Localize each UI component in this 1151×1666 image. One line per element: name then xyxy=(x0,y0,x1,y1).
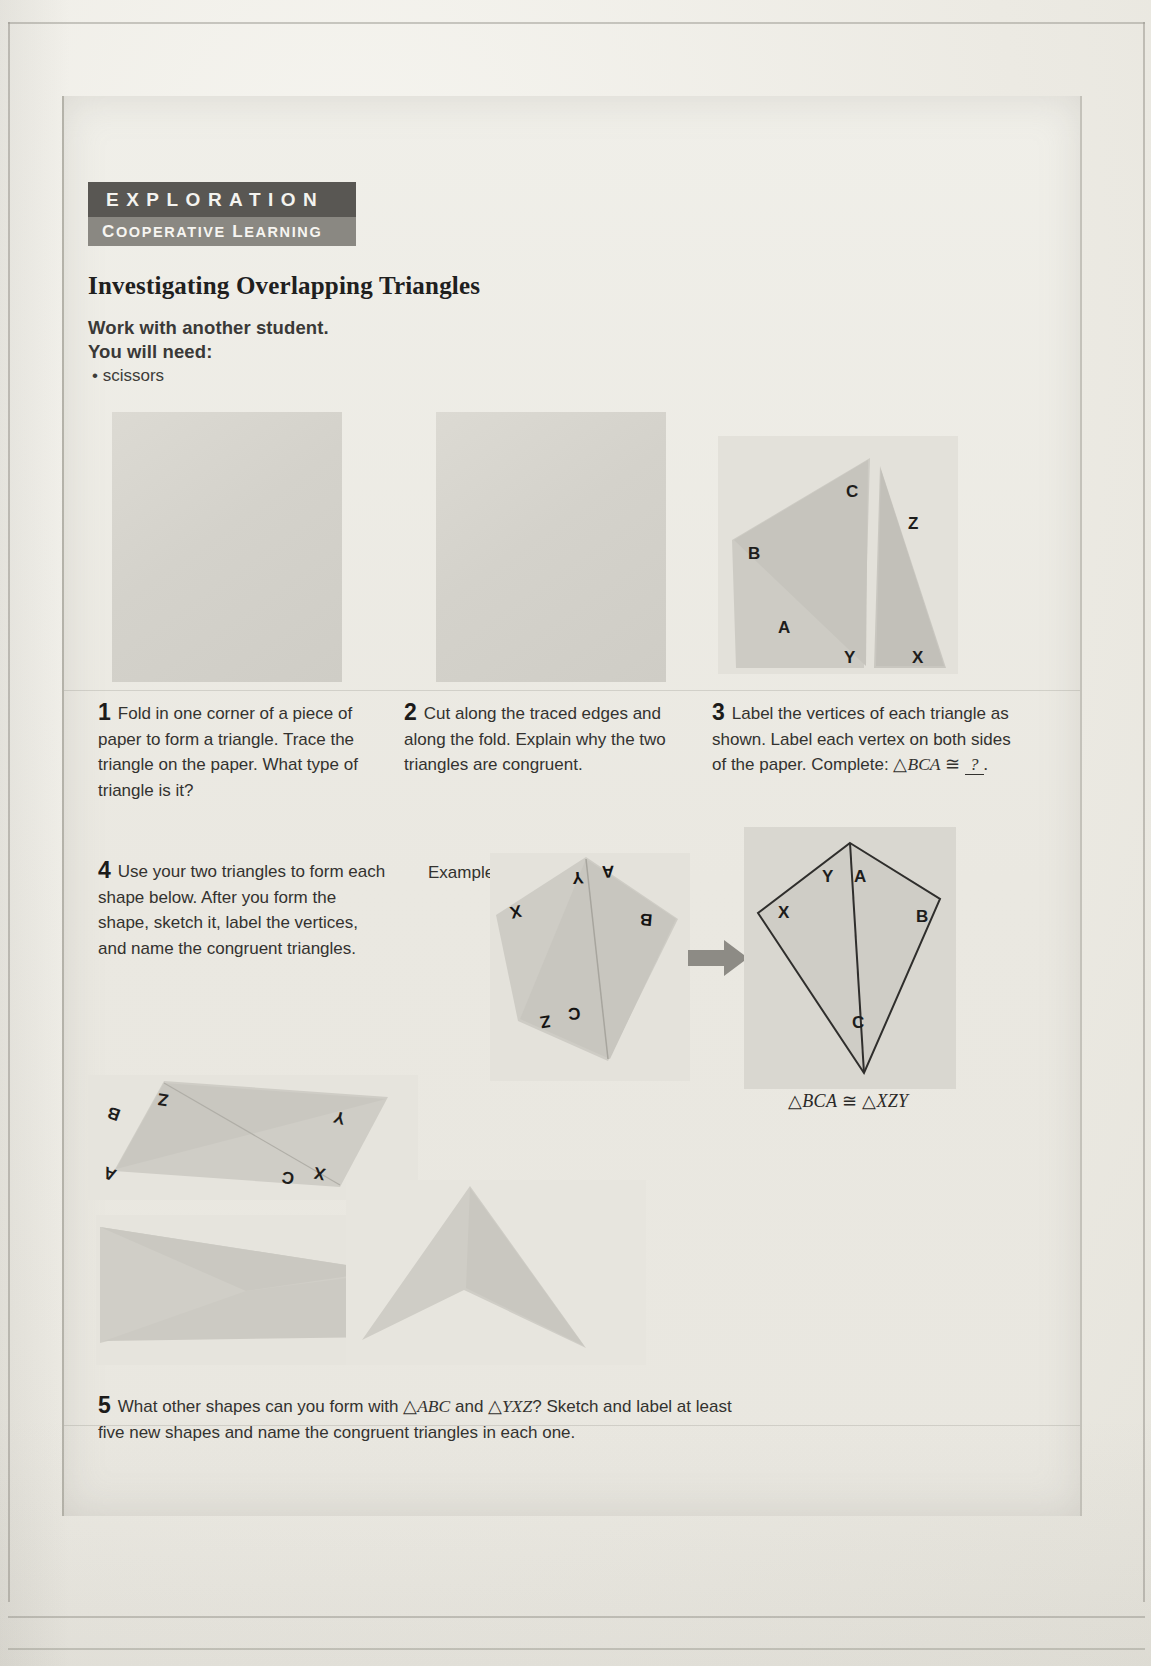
caption-xzy: XZY xyxy=(876,1091,908,1111)
step-1-number: 1 xyxy=(98,699,111,725)
page-border-top xyxy=(8,22,1145,24)
exploration-banner-subtitle: COOPERATIVE LEARNING xyxy=(88,217,356,246)
right-arrow-icon xyxy=(688,938,750,978)
photo3-vertex-label-z: Z xyxy=(908,514,918,534)
step-5-text-a: What other shapes can you form with xyxy=(118,1397,399,1416)
you-will-need-label: You will need: xyxy=(88,341,212,363)
photo3-vertex-label-y: Y xyxy=(844,648,855,668)
content-frame-rule-left xyxy=(62,96,64,1516)
example-label: Example: xyxy=(428,863,499,883)
kitephoto-vertex-label-y: Y xyxy=(571,867,584,888)
step-4: 4Use your two triangles to form each sha… xyxy=(98,858,390,961)
step-3-congruent-symbol: ≅ xyxy=(945,754,960,774)
caption-congruent: ≅ xyxy=(842,1091,857,1111)
step-2-text: Cut along the traced edges and along the… xyxy=(404,704,666,774)
step-4-number: 4 xyxy=(98,857,111,883)
kite-diagram-artwork xyxy=(744,827,956,1089)
kite-congruence-caption: △BCA ≅ △XZY xyxy=(788,1090,908,1112)
step-2: 2Cut along the traced edges and along th… xyxy=(404,700,696,778)
photo3-vertex-label-c: C xyxy=(846,482,858,502)
kitephoto-vertex-label-c: C xyxy=(567,1003,581,1024)
photo-fold-and-trace xyxy=(112,412,342,682)
step-3-period: . xyxy=(984,754,988,774)
photo1-background xyxy=(112,412,342,682)
caption-bca: BCA xyxy=(802,1091,837,1111)
photo3-vertex-label-b: B xyxy=(748,544,760,564)
kite-diagram-vertex-b: B xyxy=(916,907,928,927)
step-3-triangle-bca: BCA xyxy=(907,754,940,774)
step-3: 3Label the vertices of each triangle as … xyxy=(712,700,1012,778)
step-3-answer-blank: ? xyxy=(965,755,984,775)
kite-diagram-vertex-c: C xyxy=(852,1013,864,1033)
step-5-number: 5 xyxy=(98,1392,111,1418)
exploration-banner: EXPLORATION COOPERATIVE LEARNING xyxy=(88,182,356,246)
step-5-abc: ABC xyxy=(417,1396,450,1416)
step-1: 1Fold in one corner of a piece of paper … xyxy=(98,700,384,803)
materials-list-item: • scissors xyxy=(92,366,164,386)
step-5-triangle-2: △ xyxy=(488,1396,502,1416)
banner-sub-ooperative: OOPERATIVE xyxy=(116,224,226,240)
step-2-number: 2 xyxy=(404,699,417,725)
scan-fold-line-upper xyxy=(64,690,1080,691)
step-4-text: Use your two triangles to form each shap… xyxy=(98,862,385,958)
caption-triangle-1: △ xyxy=(788,1091,802,1111)
page-border-left xyxy=(8,22,10,1602)
step-5: 5What other shapes can you form with △AB… xyxy=(98,1393,738,1445)
photo2-background xyxy=(436,412,666,682)
caption-triangle-2: △ xyxy=(862,1091,876,1111)
photo-cut-with-scissors xyxy=(436,412,666,682)
step-5-yxz: YXZ xyxy=(502,1396,532,1416)
exploration-banner-title: EXPLORATION xyxy=(88,182,356,217)
photo-dart-shape xyxy=(346,1180,646,1365)
kite-diagram-vertex-a: A xyxy=(854,867,866,887)
page-border-right xyxy=(1143,22,1145,1602)
kite-photo-artwork xyxy=(490,853,690,1081)
diagram-kite-labeled: Y A X B C xyxy=(744,827,956,1089)
kitephoto-vertex-label-a: A xyxy=(602,861,615,881)
page-border-bottom xyxy=(8,1616,1145,1618)
banner-sub-c: C xyxy=(102,222,116,241)
banner-sub-l: L xyxy=(226,222,244,241)
content-frame-rule-right xyxy=(1080,96,1082,1516)
kitephoto-vertex-label-b: B xyxy=(639,909,653,930)
bullet-icon: • xyxy=(92,366,98,385)
step-5-triangle-1: △ xyxy=(403,1396,417,1416)
kite-diagram-vertex-x: X xyxy=(778,903,789,923)
work-with-instruction: Work with another student. xyxy=(88,317,329,339)
photo-kite-paper-shape: A Y X B C Z xyxy=(490,853,690,1081)
dart-artwork xyxy=(346,1180,646,1365)
step-1-text: Fold in one corner of a piece of paper t… xyxy=(98,704,358,800)
banner-sub-earning: EARNING xyxy=(244,224,322,240)
step-3-number: 3 xyxy=(712,699,725,725)
page-border-bottom-secondary xyxy=(8,1648,1145,1650)
page-title: Investigating Overlapping Triangles xyxy=(88,272,480,300)
photo3-vertex-label-a: A xyxy=(778,618,790,638)
photo3-vertex-label-x: X xyxy=(912,648,923,668)
photo-two-labeled-triangles: C Z B A Y X xyxy=(718,436,958,674)
step-3-triangle-symbol: △ xyxy=(893,754,907,774)
kite-diagram-vertex-y: Y xyxy=(822,867,833,887)
step-5-and: and xyxy=(455,1397,483,1416)
material-scissors: scissors xyxy=(103,366,164,385)
